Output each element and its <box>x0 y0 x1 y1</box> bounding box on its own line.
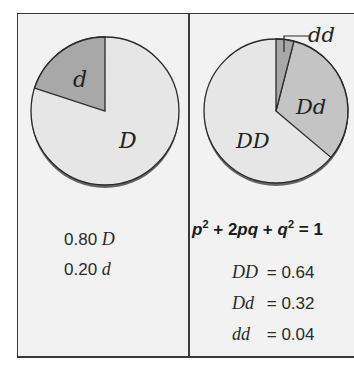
eq-plus-2: + <box>258 220 277 239</box>
allele-frequency-D: 0.80 D <box>64 229 115 250</box>
genotype-symbol: dd <box>232 324 262 345</box>
genotype-symbol: DD <box>232 262 262 283</box>
hardy-weinberg-equation: p2 + 2pq + q2 = 1 <box>192 220 323 240</box>
genotype-symbol: Dd <box>232 293 262 314</box>
genotype-frequency-dd: dd = 0.04 <box>232 324 314 345</box>
eq-plus-1: + 2 <box>209 220 238 239</box>
pie-charts: d D dd Dd DD <box>0 0 354 371</box>
genotype-frequency-DD: DD = 0.64 <box>232 262 314 283</box>
genotype-pie-chart: dd Dd DD <box>204 23 348 186</box>
genotype-value: = 0.32 <box>267 294 315 313</box>
allele-frequency-d: 0.20 d <box>64 259 111 280</box>
pie-label-d: d <box>73 67 87 92</box>
pie-label-DD: DD <box>235 129 270 153</box>
allele-pie-chart: d D <box>31 37 179 188</box>
pie-label-dd: dd <box>308 23 335 47</box>
eq-q: q <box>278 220 288 239</box>
genotype-value: = 0.64 <box>267 263 315 282</box>
allele-symbol: D <box>102 229 115 249</box>
pie-label-Dd: Dd <box>295 95 326 119</box>
eq-p: p <box>192 220 202 239</box>
pie-label-D: D <box>118 128 137 153</box>
genotype-value: = 0.04 <box>267 325 315 344</box>
frequency-value: 0.80 <box>64 230 97 249</box>
frequency-value: 0.20 <box>64 260 97 279</box>
allele-symbol: d <box>102 259 111 279</box>
eq-pq: pq <box>237 220 258 239</box>
eq-equals: = 1 <box>294 220 323 239</box>
genotype-frequency-Dd: Dd = 0.32 <box>232 293 314 314</box>
